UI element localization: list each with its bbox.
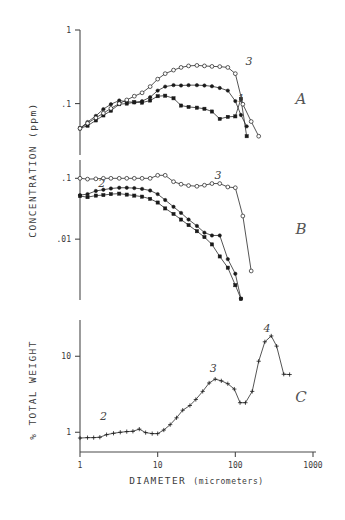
datapoint-B-2 xyxy=(187,218,190,221)
datapoint-B-3 xyxy=(86,177,90,181)
y-tick-label-C-1: 1 xyxy=(66,428,71,437)
datapoint-A-2 xyxy=(133,101,136,104)
datapoint-A-3 xyxy=(218,65,222,69)
y-tick-label-A-0: 1 xyxy=(66,26,71,35)
datapoint-A-3 xyxy=(125,98,129,102)
curve-number-label-A-3: 3 xyxy=(246,55,253,68)
datapoint-A-1 xyxy=(210,110,213,113)
datapoint-A-3 xyxy=(195,64,199,68)
figure-canvas: 1.131A.1.0123B101234C1101001000DIAMETER … xyxy=(0,0,345,520)
datapoint-B-3 xyxy=(226,185,230,189)
datapoint-B-1 xyxy=(195,230,198,233)
datapoint-B-1 xyxy=(179,218,182,221)
datapoint-B-2 xyxy=(218,234,221,237)
datapoint-B-2 xyxy=(226,257,229,260)
datapoint-A-3 xyxy=(163,72,167,76)
datapoint-A-3 xyxy=(187,64,191,68)
datapoint-A-2 xyxy=(203,84,206,87)
datapoint-B-2 xyxy=(172,205,175,208)
datapoint-B-3 xyxy=(132,176,136,180)
datapoint-B-1 xyxy=(210,243,213,246)
datapoint-B-1 xyxy=(149,197,152,200)
curve-number-label-C-4: 4 xyxy=(262,322,270,335)
datapoint-A-2 xyxy=(163,85,166,88)
datapoint-B-3 xyxy=(117,176,121,180)
datapoint-B-2 xyxy=(133,186,136,189)
datapoint-A-3 xyxy=(249,120,253,124)
datapoint-A-2 xyxy=(187,83,190,86)
datapoint-B-1 xyxy=(133,194,136,197)
datapoint-A-1 xyxy=(218,117,221,120)
x-tick-label-3: 1000 xyxy=(303,461,322,470)
panel-label-B: B xyxy=(294,220,306,238)
datapoint-B-3 xyxy=(187,184,191,188)
datapoint-A-3 xyxy=(109,106,113,110)
datapoint-B-3 xyxy=(78,176,82,180)
datapoint-A-1 xyxy=(203,107,206,110)
datapoint-B-2 xyxy=(203,231,206,234)
datapoint-B-1 xyxy=(109,193,112,196)
datapoint-B-2 xyxy=(78,193,81,196)
datapoint-B-2 xyxy=(234,272,237,275)
datapoint-A-3 xyxy=(257,134,261,138)
datapoint-A-1 xyxy=(187,105,190,108)
datapoint-B-2 xyxy=(210,234,213,237)
datapoint-A-2 xyxy=(156,89,159,92)
datapoint-A-3 xyxy=(226,66,230,70)
x-tick-label-0: 1 xyxy=(78,461,83,470)
datapoint-B-2 xyxy=(163,198,166,201)
datapoint-B-3 xyxy=(125,176,129,180)
datapoint-B-2 xyxy=(239,297,242,300)
x-axis-title-units: (micrometers) xyxy=(193,477,263,486)
y-tick-label-B-0: .1 xyxy=(61,174,71,183)
datapoint-A-1 xyxy=(172,97,175,100)
curve-number-label-B-2: 2 xyxy=(97,177,105,190)
datapoint-B-3 xyxy=(109,176,113,180)
datapoint-A-3 xyxy=(179,66,183,70)
datapoint-A-3 xyxy=(233,72,237,76)
datapoint-B-3 xyxy=(148,176,152,180)
datapoint-B-2 xyxy=(140,187,143,190)
datapoint-A-2 xyxy=(218,86,221,89)
y-axis-title-concentration: CONCENTRATION (ppm) xyxy=(27,102,38,237)
datapoint-A-3 xyxy=(172,68,176,72)
datapoint-A-3 xyxy=(94,116,98,120)
curve-number-label-C-3: 3 xyxy=(210,362,217,375)
datapoint-A-2 xyxy=(172,83,175,86)
datapoint-B-1 xyxy=(187,224,190,227)
datapoint-B-2 xyxy=(148,189,151,192)
datapoint-B-3 xyxy=(179,182,183,186)
datapoint-B-2 xyxy=(86,192,89,195)
datapoint-B-1 xyxy=(94,194,97,197)
datapoint-B-1 xyxy=(125,193,128,196)
datapoint-B-3 xyxy=(210,182,214,186)
datapoint-A-2 xyxy=(148,96,151,99)
datapoint-A-1 xyxy=(226,115,229,118)
x-tick-label-2: 100 xyxy=(228,461,243,470)
y-tick-label-A-1: .1 xyxy=(61,100,71,109)
curve-number-label-C-2: 2 xyxy=(99,410,107,423)
datapoint-A-2 xyxy=(109,103,112,106)
datapoint-A-2 xyxy=(245,125,248,128)
datapoint-A-2 xyxy=(226,89,229,92)
datapoint-A-2 xyxy=(140,99,143,102)
datapoint-A-1 xyxy=(149,99,152,102)
curve-C-total xyxy=(80,336,290,438)
y-tick-label-C-0: 10 xyxy=(61,352,71,361)
datapoint-B-1 xyxy=(234,284,237,287)
datapoint-B-3 xyxy=(156,173,160,177)
datapoint-B-3 xyxy=(163,173,167,177)
datapoint-A-1 xyxy=(234,115,237,118)
three-panel-log-log-plot: 1.131A.1.0123B101234C1101001000DIAMETER … xyxy=(0,0,345,520)
datapoint-B-3 xyxy=(203,183,207,187)
datapoint-A-1 xyxy=(156,95,159,98)
datapoint-B-1 xyxy=(218,255,221,258)
curve-A-3 xyxy=(80,65,259,136)
datapoint-B-3 xyxy=(140,176,144,180)
datapoint-A-1 xyxy=(195,106,198,109)
datapoint-A-3 xyxy=(140,91,144,95)
datapoint-B-2 xyxy=(125,186,128,189)
x-tick-label-1: 10 xyxy=(153,461,163,470)
datapoint-B-3 xyxy=(218,182,222,186)
datapoint-A-1 xyxy=(164,94,167,97)
